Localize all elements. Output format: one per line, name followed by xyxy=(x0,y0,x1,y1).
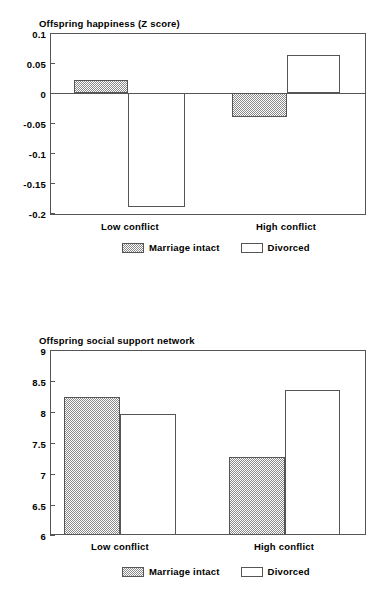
bar-bottom-low-marriage-intact xyxy=(64,397,120,535)
xtick-label-top-low-conflict: Low conflict xyxy=(80,221,180,232)
ytick-mark-bottom-5 xyxy=(50,505,55,506)
bar-bottom-high-divorced xyxy=(285,390,340,535)
legend-bottom: Marriage intact Divorced xyxy=(122,566,310,577)
ytick-label-bottom-3: 7.5 xyxy=(4,439,46,450)
ytick-label-top-0: 0.1 xyxy=(4,29,46,40)
legend-swatch-marriage-intact-bottom xyxy=(122,567,144,577)
ytick-mark-top-3 xyxy=(50,123,55,124)
legend-label-marriage-intact-top: Marriage intact xyxy=(149,242,220,253)
ytick-mark-top-4 xyxy=(50,153,55,154)
ytick-label-top-5: -0.15 xyxy=(4,179,46,190)
bar-top-high-divorced xyxy=(287,55,340,93)
ytick-mark-bottom-2 xyxy=(50,412,55,413)
ytick-mark-bottom-4 xyxy=(50,474,55,475)
ytick-label-bottom-0: 9 xyxy=(4,346,46,357)
ytick-mark-top-0 xyxy=(50,33,55,34)
ytick-mark-bottom-1 xyxy=(50,381,55,382)
ytick-mark-top-5 xyxy=(50,183,55,184)
legend-swatch-divorced-bottom xyxy=(241,567,263,577)
legend-label-marriage-intact-bottom: Marriage intact xyxy=(149,566,220,577)
ytick-label-bottom-1: 8.5 xyxy=(4,377,46,388)
ytick-label-top-3: -0.05 xyxy=(4,119,46,130)
xtick-label-top-high-conflict: High conflict xyxy=(236,221,336,232)
ytick-label-top-1: 0.05 xyxy=(4,59,46,70)
ytick-mark-bottom-3 xyxy=(50,443,55,444)
ytick-label-bottom-2: 8 xyxy=(4,408,46,419)
figure-offspring-happiness: Offspring happiness (Z score) 0.1 0.05 0… xyxy=(0,0,391,278)
ytick-mark-bottom-6 xyxy=(50,535,55,536)
legend-label-divorced-bottom: Divorced xyxy=(268,566,310,577)
ytick-label-bottom-4: 7 xyxy=(4,470,46,481)
figure-offspring-social-support-network: Offspring social support network 9 8.5 8… xyxy=(0,300,391,602)
bar-top-low-marriage-intact xyxy=(74,80,128,93)
bar-top-high-marriage-intact xyxy=(232,93,287,117)
legend-swatch-divorced-top xyxy=(241,243,263,253)
ytick-mark-top-6 xyxy=(50,213,55,214)
ytick-label-top-6: -0.2 xyxy=(4,209,46,220)
bar-bottom-high-marriage-intact xyxy=(229,457,285,535)
ytick-label-bottom-5: 6.5 xyxy=(4,501,46,512)
zero-line-top xyxy=(50,93,366,94)
legend-swatch-marriage-intact-top xyxy=(122,243,144,253)
ytick-mark-top-1 xyxy=(50,63,55,64)
ytick-label-bottom-6: 6 xyxy=(4,531,46,542)
legend-top: Marriage intact Divorced xyxy=(122,242,310,253)
ytick-label-top-4: -0.1 xyxy=(4,149,46,160)
bar-top-low-divorced xyxy=(128,93,185,207)
bar-bottom-low-divorced xyxy=(120,414,176,535)
ytick-label-top-2: 0 xyxy=(4,89,46,100)
ytick-mark-bottom-0 xyxy=(50,350,55,351)
chart-title-bottom: Offspring social support network xyxy=(39,335,195,346)
chart-title-top: Offspring happiness (Z score) xyxy=(39,18,180,29)
legend-label-divorced-top: Divorced xyxy=(268,242,310,253)
xtick-label-bottom-high-conflict: High conflict xyxy=(234,541,334,552)
xtick-label-bottom-low-conflict: Low conflict xyxy=(70,541,170,552)
